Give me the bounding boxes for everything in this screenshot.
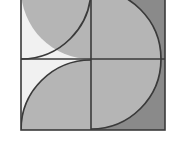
figure-container [0, 0, 171, 158]
geometric-figure [0, 0, 171, 158]
